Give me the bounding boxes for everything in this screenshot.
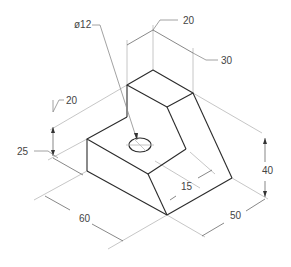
label-hole-diameter: ø12: [74, 19, 92, 30]
label-upper-width: 20: [183, 15, 195, 26]
label-depth: 50: [230, 210, 242, 221]
hole: [126, 138, 154, 152]
label-slot-offset: 15: [181, 181, 193, 192]
label-total-height: 40: [262, 165, 274, 176]
dimension-labels: ø12 20 30 20 25 60 15 40 50: [17, 15, 274, 224]
label-base-height: 25: [17, 146, 29, 157]
part-outline: [87, 70, 232, 215]
label-step-height: 20: [66, 95, 78, 106]
dimension-lines: [34, 20, 267, 241]
isometric-technical-drawing: ø12 20 30 20 25 60 15 40 50: [0, 0, 291, 267]
label-upper-depth: 30: [221, 55, 233, 66]
label-length: 60: [79, 213, 91, 224]
